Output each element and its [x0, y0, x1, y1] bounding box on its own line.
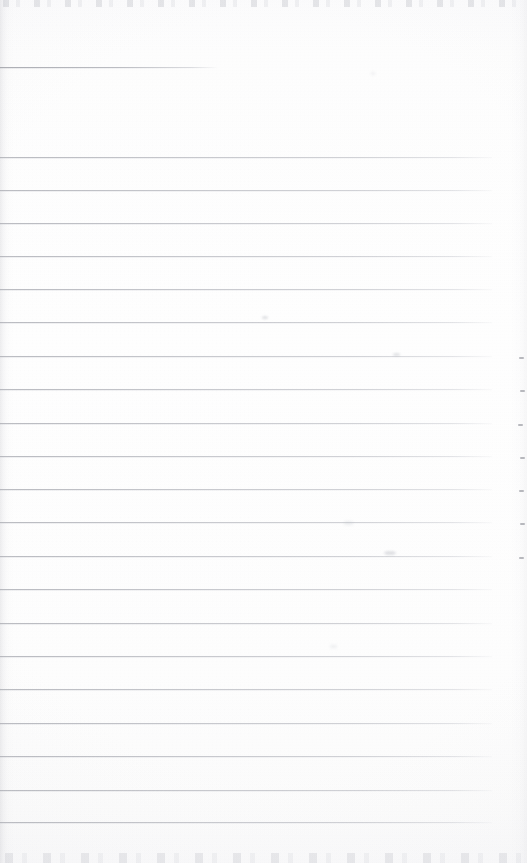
ruled-line: [0, 656, 492, 657]
ruled-line: [0, 723, 492, 724]
scanned-page: [0, 0, 527, 863]
margin-speck: [519, 490, 524, 492]
ruled-line: [0, 556, 492, 557]
ruled-line: [0, 423, 492, 424]
right-edge-shadow: [511, 0, 527, 863]
short-top-rule: [0, 67, 217, 68]
ruled-line: [0, 190, 492, 191]
paper-smudge: [344, 521, 353, 525]
margin-speck: [520, 390, 525, 392]
paper-smudge: [330, 645, 337, 648]
ruled-line: [0, 356, 492, 357]
ruled-line: [0, 689, 492, 690]
paper-smudge: [393, 353, 400, 356]
margin-speck: [519, 557, 524, 559]
ruled-line: [0, 322, 492, 323]
ruled-line: [0, 289, 492, 290]
paper-background: [0, 0, 527, 863]
paper-smudge: [384, 551, 396, 555]
ruled-line: [0, 389, 492, 390]
margin-speck: [520, 457, 525, 459]
ruled-line: [0, 756, 492, 757]
ruled-line: [0, 456, 492, 457]
margin-speck: [519, 357, 524, 359]
margin-speck: [518, 424, 523, 426]
bottom-edge-scan-artifact: [0, 853, 527, 863]
ruled-line: [0, 157, 492, 158]
ruled-line: [0, 522, 492, 523]
margin-speck: [520, 523, 525, 525]
paper-smudge: [262, 316, 268, 319]
paper-smudge: [371, 72, 375, 75]
ruled-line: [0, 589, 492, 590]
ruled-line: [0, 489, 492, 490]
left-edge-shadow: [0, 0, 14, 863]
ruled-line: [0, 822, 492, 823]
top-edge-scan-artifact: [0, 0, 527, 7]
ruled-line: [0, 790, 492, 791]
ruled-line: [0, 223, 492, 224]
ruled-line: [0, 623, 492, 624]
ruled-line: [0, 256, 492, 257]
